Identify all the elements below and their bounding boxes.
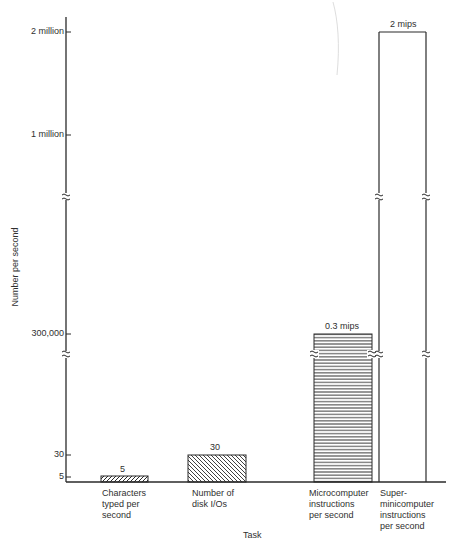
- y-axis-title: Number per second: [10, 222, 20, 312]
- bar-microcomputer: [309, 334, 377, 482]
- axis-break-icon: [62, 351, 70, 357]
- category-label-superminicomputer: Super- minicomputer instructions per sec…: [380, 488, 434, 532]
- bar-chart: [0, 0, 459, 553]
- bar-disk-ios: [188, 455, 246, 482]
- bar-value-label: 5: [120, 464, 125, 475]
- y-tick-30: 30: [4, 449, 64, 460]
- category-label-disk-ios: Number of disk I/Os: [192, 488, 234, 510]
- scan-artifact: [333, 2, 338, 75]
- x-axis-title: Task: [243, 530, 262, 541]
- bar-break-icon: [422, 351, 430, 357]
- category-label-characters: Characters typed per second: [102, 488, 146, 521]
- y-tick-5: 5: [4, 471, 64, 482]
- y-tick-2-million: 2 million: [4, 26, 64, 37]
- bar-value-label: 30: [210, 442, 220, 453]
- category-label-microcomputer: Microcomputer instructions per second: [309, 488, 369, 521]
- bar-characters-typed: [101, 476, 148, 482]
- y-axis: [62, 17, 71, 482]
- bar-break-icon: [375, 194, 383, 200]
- axis-break-icon: [62, 194, 70, 200]
- y-tick-1-million: 1 million: [4, 129, 64, 140]
- bar-value-label: 2 mips: [390, 19, 417, 30]
- bar-break-icon: [422, 194, 430, 200]
- y-tick-300000: 300,000: [4, 328, 64, 339]
- bar-value-label: 0.3 mips: [325, 321, 359, 332]
- bar-superminicomputer: [375, 32, 430, 482]
